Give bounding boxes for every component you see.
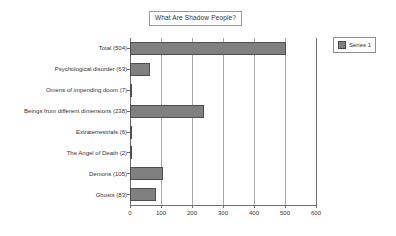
chart-legend: Series 1 bbox=[333, 37, 376, 53]
y-axis-tick bbox=[127, 48, 130, 49]
y-axis-category-label: Extraterrestrials (6) bbox=[76, 129, 127, 135]
x-axis-tick-label: 300 bbox=[218, 210, 228, 216]
x-axis-tick bbox=[192, 205, 193, 208]
bar[interactable] bbox=[130, 167, 163, 180]
x-axis-tick-label: 200 bbox=[187, 210, 197, 216]
bar-row bbox=[130, 142, 316, 163]
x-axis-tick bbox=[130, 205, 131, 208]
bar[interactable] bbox=[130, 42, 286, 55]
plot-area: 0100200300400500600 bbox=[130, 38, 316, 205]
y-axis-category-label: Psychological disorder (63) bbox=[55, 66, 127, 72]
y-axis-tick bbox=[127, 173, 130, 174]
bar[interactable] bbox=[130, 105, 204, 118]
y-axis-category-label: Omens of impending doom (7) bbox=[46, 87, 127, 93]
bar-row bbox=[130, 184, 316, 205]
bar[interactable] bbox=[130, 84, 132, 97]
bar[interactable] bbox=[130, 146, 132, 159]
x-axis-tick bbox=[161, 205, 162, 208]
bar-row bbox=[130, 38, 316, 59]
page-title: What Are Shadow People? bbox=[155, 15, 236, 22]
y-axis-category-label: Demons (105) bbox=[89, 171, 127, 177]
bar[interactable] bbox=[130, 63, 150, 76]
chart-title-box: What Are Shadow People? bbox=[149, 11, 242, 26]
x-gridline bbox=[316, 38, 317, 205]
x-axis-tick bbox=[254, 205, 255, 208]
y-axis-tick bbox=[127, 132, 130, 133]
x-axis-tick-label: 400 bbox=[249, 210, 259, 216]
y-axis-tick bbox=[127, 111, 130, 112]
x-axis-tick-label: 500 bbox=[280, 210, 290, 216]
x-axis-tick-label: 100 bbox=[156, 210, 166, 216]
bar-row bbox=[130, 122, 316, 143]
bar-row bbox=[130, 80, 316, 101]
x-axis-tick-label: 600 bbox=[311, 210, 321, 216]
x-axis-tick bbox=[285, 205, 286, 208]
y-axis-tick bbox=[127, 90, 130, 91]
bar[interactable] bbox=[130, 126, 132, 139]
x-axis-tick bbox=[316, 205, 317, 208]
y-axis-tick bbox=[127, 69, 130, 70]
bar[interactable] bbox=[130, 188, 156, 201]
y-axis-category-label: The Angel of Death (2) bbox=[67, 150, 127, 156]
bar-row bbox=[130, 101, 316, 122]
x-axis-tick bbox=[223, 205, 224, 208]
x-axis-tick-label: 0 bbox=[128, 210, 131, 216]
legend-swatch-icon bbox=[338, 41, 346, 49]
y-axis-category-label: Total (504) bbox=[99, 45, 127, 51]
y-axis-category-label: Ghosts (83) bbox=[96, 192, 127, 198]
bar-row bbox=[130, 163, 316, 184]
chart-container: What Are Shadow People? Series 1 0100200… bbox=[0, 0, 396, 236]
y-axis-tick bbox=[127, 152, 130, 153]
y-axis-tick bbox=[127, 194, 130, 195]
y-axis-category-label: Beings from different dimensions (238) bbox=[24, 108, 127, 114]
legend-entry-label: Series 1 bbox=[349, 42, 371, 48]
bar-row bbox=[130, 59, 316, 80]
